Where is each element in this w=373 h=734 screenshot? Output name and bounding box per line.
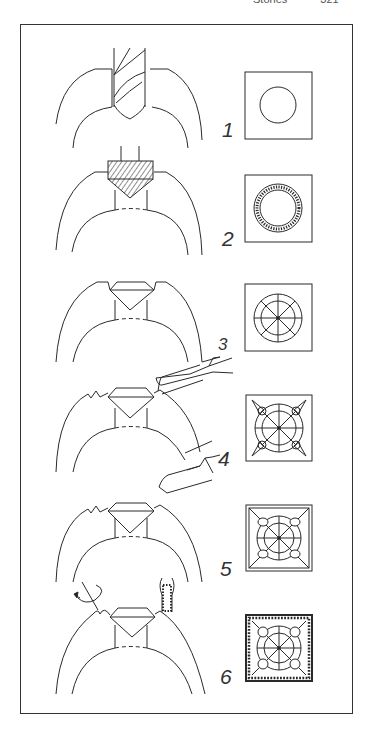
step-number-5: 5 bbox=[220, 557, 232, 581]
drill-bit-icon bbox=[114, 48, 145, 119]
plan-view-2 bbox=[245, 175, 312, 242]
graver-icon bbox=[156, 357, 233, 385]
graver-icon-4 bbox=[158, 365, 220, 493]
plan-view-5 bbox=[246, 505, 312, 571]
step-number-1: 1 bbox=[222, 118, 234, 142]
step-1-ring bbox=[56, 69, 202, 148]
figure-drawing bbox=[0, 0, 373, 734]
step-number-3: 3 bbox=[218, 335, 227, 355]
stone-icon-6 bbox=[110, 608, 155, 637]
beading-tool-icon bbox=[74, 582, 102, 610]
step-number-2: 2 bbox=[222, 227, 234, 251]
step-3-ring bbox=[56, 282, 202, 362]
step-5-ring bbox=[56, 505, 202, 582]
plan-view-4 bbox=[246, 395, 312, 461]
millgrain-wheel-icon bbox=[160, 578, 174, 612]
step-4-ring bbox=[56, 390, 200, 472]
step-6-ring bbox=[56, 610, 205, 694]
plan-view-1 bbox=[245, 72, 312, 139]
plan-view-6 bbox=[246, 615, 312, 681]
step-number-4: 4 bbox=[218, 447, 230, 471]
step-number-6: 6 bbox=[220, 665, 232, 689]
plan-view-3 bbox=[245, 284, 312, 351]
